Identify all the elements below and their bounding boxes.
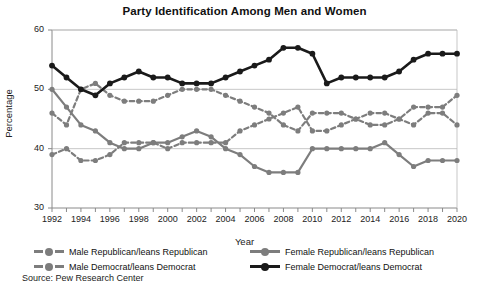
data-point: [310, 146, 315, 151]
data-point: [165, 93, 170, 98]
data-point: [339, 111, 344, 116]
x-tick-label: 2020: [437, 214, 477, 224]
data-point: [237, 152, 242, 157]
data-point: [194, 128, 199, 133]
data-point: [281, 122, 286, 127]
data-point: [397, 152, 402, 157]
data-point: [281, 45, 287, 51]
data-point: [440, 51, 446, 57]
data-point: [237, 69, 243, 75]
data-point: [353, 75, 359, 81]
data-point: [295, 128, 300, 133]
chart-figure: Party Identification Among Men and Women…: [0, 0, 489, 296]
legend-item[interactable]: Male Republican/leans Republican: [34, 244, 256, 259]
data-point: [107, 152, 112, 157]
data-point: [252, 63, 258, 69]
data-point: [165, 140, 170, 145]
data-point: [237, 99, 242, 104]
data-point: [310, 51, 316, 57]
data-point: [93, 92, 99, 98]
legend-swatch-icon: [34, 261, 64, 272]
legend-item[interactable]: Male Democrat/leans Democrat: [34, 259, 256, 274]
data-point: [49, 152, 54, 157]
data-point: [194, 140, 199, 145]
data-point: [338, 75, 344, 81]
data-point: [49, 87, 54, 92]
data-point: [121, 75, 127, 81]
data-point: [411, 105, 416, 110]
legend-swatch-icon: [250, 261, 280, 272]
data-point: [180, 134, 185, 139]
data-point: [310, 128, 315, 133]
data-point: [151, 140, 156, 145]
data-point: [440, 158, 445, 163]
y-axis-label: Percentage: [3, 44, 14, 184]
data-point: [165, 75, 171, 81]
data-point: [382, 75, 388, 81]
data-point: [281, 111, 286, 116]
data-point: [426, 158, 431, 163]
data-point: [78, 86, 84, 92]
legend-label: Male Democrat/leans Democrat: [69, 262, 196, 272]
data-point: [353, 146, 358, 151]
data-point: [209, 140, 214, 145]
data-point: [324, 128, 329, 133]
data-point: [295, 170, 300, 175]
data-point: [136, 69, 142, 75]
data-point: [252, 105, 257, 110]
data-point: [93, 81, 98, 86]
data-point: [223, 146, 228, 151]
data-point: [78, 158, 83, 163]
data-point: [396, 69, 402, 75]
data-point: [368, 146, 373, 151]
data-point: [150, 75, 156, 81]
data-point: [165, 146, 170, 151]
data-point: [223, 140, 228, 145]
data-point: [353, 116, 358, 121]
data-point: [454, 93, 459, 98]
data-point: [194, 81, 200, 87]
data-point: [295, 105, 300, 110]
data-point: [426, 105, 431, 110]
series-line: [52, 89, 457, 172]
line-chart-svg: [0, 22, 489, 222]
data-point: [122, 99, 127, 104]
chart-title: Party Identification Among Men and Women: [0, 5, 489, 17]
data-point: [440, 111, 445, 116]
data-point: [339, 146, 344, 151]
data-point: [194, 87, 199, 92]
data-point: [179, 81, 185, 87]
data-point: [237, 128, 242, 133]
data-point: [454, 158, 459, 163]
data-point: [93, 128, 98, 133]
data-point: [107, 140, 112, 145]
data-point: [382, 140, 387, 145]
legend-column: Female Republican/leans RepublicanFemale…: [250, 244, 472, 274]
data-point: [411, 57, 417, 63]
data-point: [122, 146, 127, 151]
data-point: [180, 140, 185, 145]
data-point: [397, 116, 402, 121]
data-point: [223, 75, 229, 81]
data-point: [209, 134, 214, 139]
data-point: [266, 57, 272, 63]
data-point: [49, 111, 54, 116]
data-point: [136, 146, 141, 151]
data-point: [64, 122, 69, 127]
data-point: [368, 122, 373, 127]
data-point: [223, 93, 228, 98]
y-tick-label: 30: [14, 202, 44, 212]
data-point: [208, 81, 214, 87]
legend-item[interactable]: Female Democrat/leans Democrat: [250, 259, 472, 274]
legend-item[interactable]: Female Republican/leans Republican: [250, 244, 472, 259]
data-point: [324, 146, 329, 151]
data-point: [382, 111, 387, 116]
legend-column: Male Republican/leans RepublicanMale Dem…: [34, 244, 256, 274]
data-point: [136, 140, 141, 145]
data-point: [411, 122, 416, 127]
data-point: [78, 122, 83, 127]
data-point: [310, 111, 315, 116]
data-point: [454, 51, 460, 57]
data-point: [252, 164, 257, 169]
data-point: [151, 99, 156, 104]
